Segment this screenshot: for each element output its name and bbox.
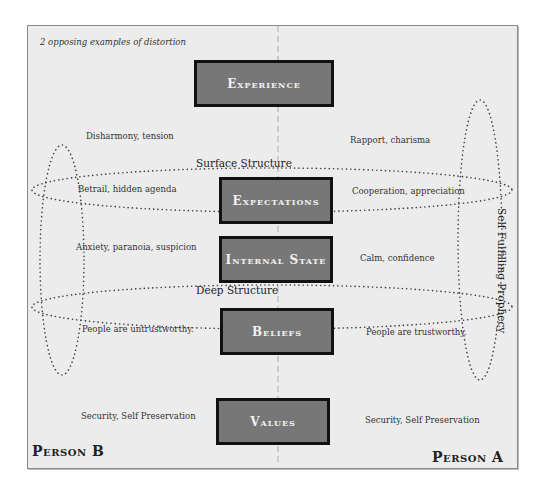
person-b-internal-state: Anxiety, paranoia, suspicion: [76, 242, 197, 252]
person-b-beliefs: People are untrustworthy.: [82, 324, 194, 334]
level-box-beliefs: Beliefs: [220, 308, 334, 355]
person-b-values: Security, Self Preservation: [81, 411, 196, 421]
diagram-caption: 2 opposing examples of distortion: [40, 37, 186, 47]
level-box-values: Values: [216, 398, 330, 445]
person-a-label: Person A: [432, 449, 503, 465]
person-a-experience: Rapport, charisma: [350, 135, 430, 145]
surface-structure-label: Surface Structure: [196, 157, 292, 169]
level-box-expectations: Expectations: [219, 177, 333, 224]
deep-structure-label: Deep Structure: [196, 284, 278, 296]
level-box-internal-state: Internal State: [219, 236, 333, 283]
person-b-experience: Disharmony, tension: [86, 131, 174, 141]
person-a-beliefs: People are trustworthy.: [366, 327, 467, 337]
person-a-internal-state: Calm, confidence: [360, 253, 435, 263]
person-a-expectations: Cooperation, appreciation: [352, 186, 465, 196]
person-b-expectations: Betrail, hidden agenda: [78, 184, 176, 194]
person-a-values: Security, Self Preservation: [365, 415, 480, 425]
level-box-experience: Experience: [194, 60, 334, 107]
self-fulfilling-prophecy-label: Self Fulfilling Prophecy: [496, 208, 508, 333]
person-b-label: Person B: [32, 443, 104, 459]
